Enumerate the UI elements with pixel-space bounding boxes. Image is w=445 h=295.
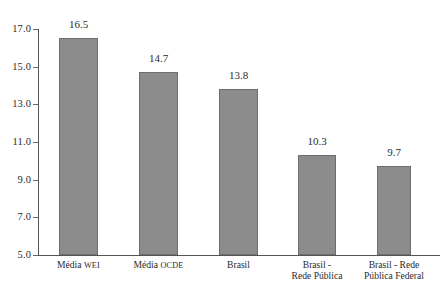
x-axis-line bbox=[38, 255, 440, 256]
bar-value-label: 13.8 bbox=[209, 70, 269, 81]
y-axis-tick-label: 7.0 bbox=[0, 212, 31, 223]
x-axis-category-label: Brasil bbox=[195, 259, 283, 270]
y-axis-tick-label: 17.0 bbox=[0, 24, 31, 35]
bar-chart: 17.015.013.011.09.07.05.0 16.514.713.810… bbox=[0, 0, 445, 295]
bar bbox=[219, 89, 258, 255]
bar bbox=[377, 166, 411, 255]
bar-value-label: 9.7 bbox=[364, 147, 424, 158]
plot-area bbox=[38, 29, 440, 255]
bar-value-label: 14.7 bbox=[129, 53, 189, 64]
x-axis-category-label: Média WEI bbox=[35, 259, 123, 271]
x-axis-category-label: Média OCDE bbox=[115, 259, 203, 271]
bar bbox=[298, 155, 336, 255]
y-axis-tick-label: 11.0 bbox=[0, 137, 31, 148]
bar bbox=[59, 38, 98, 255]
bar-value-label: 10.3 bbox=[287, 136, 347, 147]
x-axis-category-label: Brasil - RedePública Federal bbox=[350, 259, 438, 281]
x-axis-category-label: Brasil -Rede Pública bbox=[273, 259, 361, 281]
bar bbox=[139, 72, 178, 255]
y-axis-tick-label: 15.0 bbox=[0, 62, 31, 73]
y-axis-tick-label: 5.0 bbox=[0, 250, 31, 261]
bar-value-label: 16.5 bbox=[49, 19, 109, 30]
y-axis-tick-label: 13.0 bbox=[0, 99, 31, 110]
y-axis-tick bbox=[33, 255, 38, 256]
y-axis-tick-label: 9.0 bbox=[0, 175, 31, 186]
